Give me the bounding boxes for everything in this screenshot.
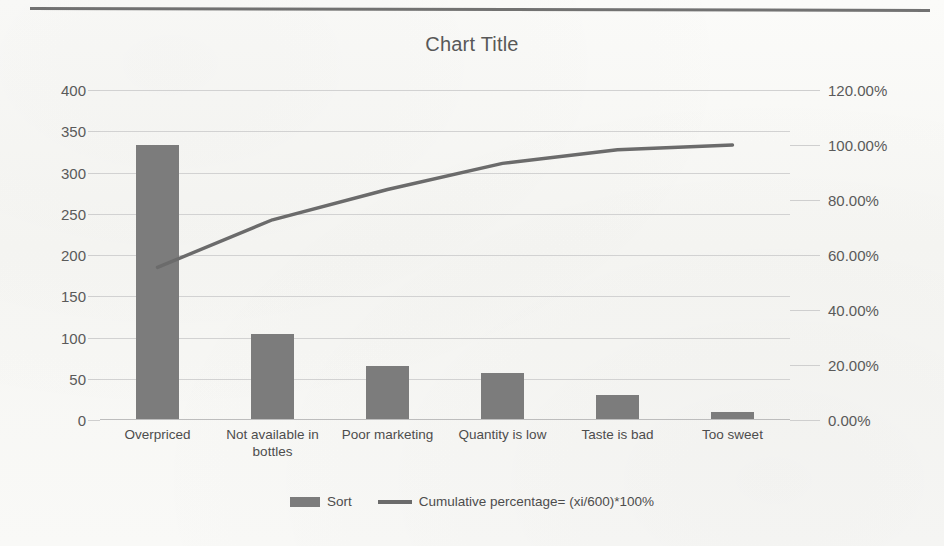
right-tick-stub	[790, 365, 820, 366]
category-label: Not available in bottles	[215, 426, 330, 478]
category-label: Overpriced	[100, 426, 215, 478]
left-tick-stub	[88, 173, 100, 174]
left-axis-tick-label: 50	[69, 370, 86, 387]
left-axis-tick-label: 100	[61, 329, 86, 346]
right-axis-tick-label: 120.00%	[828, 82, 887, 99]
category-label: Too sweet	[675, 426, 790, 478]
left-axis-tick-label: 250	[61, 205, 86, 222]
right-tick-stub	[790, 420, 820, 421]
left-tick-stub	[88, 90, 100, 91]
legend-label-sort: Sort	[327, 494, 352, 509]
right-tick-stub	[790, 310, 820, 311]
chart-title: Chart Title	[0, 33, 944, 56]
left-axis-tick-label: 400	[61, 82, 86, 99]
cumulative-line-path	[158, 145, 733, 267]
left-tick-stub	[88, 379, 100, 380]
left-axis-tick-label: 150	[61, 288, 86, 305]
right-axis-tick-label: 20.00%	[828, 357, 879, 374]
right-tick-stub	[790, 255, 820, 256]
chart-legend: Sort Cumulative percentage= (xi/600)*100…	[0, 494, 944, 509]
pareto-chart: Chart Title 050100150200250300350400 0.0…	[0, 0, 944, 546]
line-swatch-icon	[378, 500, 412, 504]
cumulative-line-series	[100, 90, 790, 420]
left-axis-tick-label: 350	[61, 123, 86, 140]
right-axis-tick-label: 40.00%	[828, 302, 879, 319]
category-label: Quantity is low	[445, 426, 560, 478]
category-axis-line	[100, 419, 790, 420]
category-label: Taste is bad	[560, 426, 675, 478]
category-label: Poor marketing	[330, 426, 445, 478]
right-tick-stub	[790, 145, 820, 146]
right-axis-tick-label: 0.00%	[828, 412, 871, 429]
left-tick-stub	[88, 296, 100, 297]
left-tick-stub	[88, 255, 100, 256]
legend-label-cumulative-percentage: Cumulative percentage= (xi/600)*100%	[419, 494, 654, 509]
right-tick-stub	[790, 200, 820, 201]
left-axis-tick-label: 0	[78, 412, 86, 429]
category-axis-labels: OverpricedNot available in bottlesPoor m…	[100, 426, 790, 478]
bar-swatch-icon	[290, 497, 320, 507]
left-tick-stub	[88, 131, 100, 132]
right-tick-stub	[790, 90, 820, 91]
left-tick-stub	[88, 214, 100, 215]
legend-item-cumulative-percentage[interactable]: Cumulative percentage= (xi/600)*100%	[378, 494, 654, 509]
left-axis-tick-label: 200	[61, 247, 86, 264]
right-axis-tick-label: 80.00%	[828, 192, 879, 209]
right-axis-tick-label: 60.00%	[828, 247, 879, 264]
right-axis-tick-label: 100.00%	[828, 137, 887, 154]
plot-area: 050100150200250300350400 0.00%20.00%40.0…	[100, 90, 790, 420]
left-tick-stub	[88, 420, 100, 421]
legend-item-sort[interactable]: Sort	[290, 494, 352, 509]
left-axis-tick-label: 300	[61, 164, 86, 181]
left-tick-stub	[88, 338, 100, 339]
